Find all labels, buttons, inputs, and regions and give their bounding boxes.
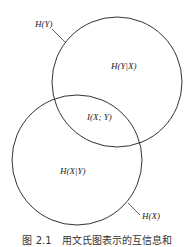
leader-hy — [52, 29, 65, 42]
label-hy-given-x: H(Y|X) — [111, 61, 136, 71]
label-hy: H(Y) — [35, 19, 53, 29]
label-mutual: I(X; Y) — [87, 112, 112, 122]
leader-hx — [128, 203, 140, 215]
circle-hy — [52, 17, 182, 147]
label-hx: H(X) — [142, 211, 160, 221]
figure-caption: 图 2.1 用文氏图表示的互信息和 — [0, 232, 194, 247]
circle-hx — [12, 95, 142, 225]
label-hx-given-y: H(X|Y) — [60, 166, 85, 176]
